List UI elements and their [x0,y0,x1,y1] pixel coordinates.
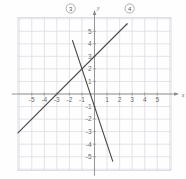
y-axis-label: y [96,5,100,11]
y-tick-label: -2 [86,115,92,122]
series-label-circle: 3 [66,4,75,13]
x-tick-label: 1 [105,96,109,103]
y-tick-label: 4 [88,40,92,47]
y-tick-label: -5 [86,153,92,160]
y-tick-label: -3 [86,128,92,135]
x-tick-label: -4 [41,96,47,103]
x-tick-label: -1 [79,96,85,103]
data-lines [18,24,127,161]
x-tick-label: 3 [130,96,134,103]
x-tick-label: 2 [118,96,122,103]
x-tick-label: 5 [155,96,159,103]
series-label-circle: 4 [125,4,134,13]
coordinate-plane-graph: -5-4-3-2-11234554321-1-2-3-4-5 34 xy [0,0,186,179]
plot-svg: -5-4-3-2-11234554321-1-2-3-4-5 34 xy [0,0,186,179]
y-tick-label: 1 [88,78,92,85]
y-tick-label: -1 [86,103,92,110]
x-axis-label: x [181,92,185,98]
axis-lines [12,10,180,176]
x-tick-label: -2 [67,96,73,103]
x-tick-label: 4 [143,96,147,103]
y-tick-label: -4 [86,141,92,148]
y-tick-label: 5 [88,28,92,35]
series-labels: 34 [66,4,134,13]
y-tick-label: 3 [88,53,92,60]
x-tick-label: -5 [29,96,35,103]
y-tick-label: 2 [88,65,92,72]
